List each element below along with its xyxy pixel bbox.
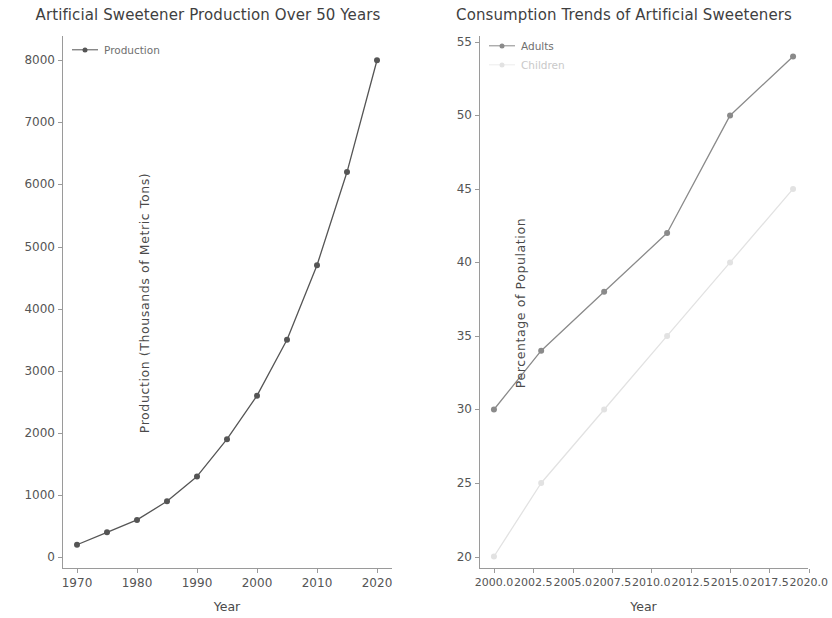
- data-point-marker: [601, 406, 607, 412]
- x-tick-label: 2015.0: [711, 576, 750, 589]
- x-tick-mark: [494, 569, 495, 573]
- data-point-marker: [491, 406, 497, 412]
- data-point-marker: [374, 57, 380, 63]
- x-tick-label: 1980: [122, 576, 153, 590]
- legend-item-label: Children: [521, 59, 565, 71]
- data-point-marker: [790, 54, 796, 60]
- plot-area-consumption: 2025303540455055 2000.02002.52005.02007.…: [479, 36, 808, 569]
- x-tick-label: 2010: [302, 576, 333, 590]
- legend-item-label: Production: [104, 44, 160, 56]
- y-tick-label: 8000: [24, 53, 55, 67]
- y-tick-label: 2000: [24, 426, 55, 440]
- x-axis-title: Year: [630, 599, 656, 614]
- x-tick-label: 1990: [182, 576, 213, 590]
- x-tick-mark: [137, 569, 138, 573]
- x-tick-label: 2010.0: [632, 576, 671, 589]
- x-tick-label: 2007.5: [593, 576, 632, 589]
- legend-item-label: Adults: [521, 40, 554, 52]
- x-tick-mark: [533, 569, 534, 573]
- data-point-marker: [104, 529, 110, 535]
- x-tick-mark: [730, 569, 731, 573]
- data-point-marker: [601, 289, 607, 295]
- data-point-marker: [727, 259, 733, 265]
- x-tick-label: 2020: [362, 576, 393, 590]
- x-tick-mark: [612, 569, 613, 573]
- y-tick-label: 25: [457, 476, 472, 490]
- x-tick-mark: [257, 569, 258, 573]
- y-tick-label: 55: [457, 35, 472, 49]
- series-line: [77, 60, 377, 545]
- plot-area-production: 010002000300040005000600070008000 197019…: [62, 36, 392, 569]
- legend-marker-icon: [489, 41, 515, 51]
- y-tick-label: 40: [457, 255, 472, 269]
- x-tick-mark: [691, 569, 692, 573]
- data-point-marker: [284, 337, 290, 343]
- legend-production: Production: [72, 44, 160, 56]
- x-tick-mark: [769, 569, 770, 573]
- data-point-marker: [194, 473, 200, 479]
- y-tick-label: 0: [47, 550, 55, 564]
- legend-marker-icon: [489, 60, 515, 70]
- x-tick-label: 2017.5: [750, 576, 789, 589]
- legend-item[interactable]: Production: [72, 44, 160, 56]
- y-tick-label: 7000: [24, 115, 55, 129]
- x-tick-mark: [77, 569, 78, 573]
- series-layer-consumption: [479, 36, 808, 569]
- x-tick-mark: [809, 569, 810, 573]
- y-tick-label: 6000: [24, 177, 55, 191]
- y-tick-label: 35: [457, 329, 472, 343]
- x-tick-mark: [573, 569, 574, 573]
- page-title: Artificial Sweetener Production Over 50 …: [0, 6, 416, 24]
- legend-item[interactable]: Adults: [489, 40, 565, 52]
- figure-canvas: Artificial Sweetener Production Over 50 …: [0, 0, 832, 618]
- x-axis-title: Year: [214, 599, 240, 614]
- data-point-marker: [134, 517, 140, 523]
- data-point-marker: [344, 169, 350, 175]
- data-point-marker: [314, 262, 320, 268]
- data-point-marker: [538, 348, 544, 354]
- y-axis-title: Percentage of Population: [513, 217, 528, 387]
- x-tick-label: 2020.0: [790, 576, 829, 589]
- legend-marker-icon: [72, 45, 98, 55]
- x-tick-mark: [651, 569, 652, 573]
- series-layer-production: [62, 36, 392, 569]
- series-line: [494, 189, 793, 557]
- data-point-marker: [664, 230, 670, 236]
- x-tick-label: 2005.0: [553, 576, 592, 589]
- x-tick-mark: [377, 569, 378, 573]
- x-tick-label: 2002.5: [514, 576, 553, 589]
- y-tick-label: 45: [457, 182, 472, 196]
- data-point-marker: [790, 186, 796, 192]
- data-point-marker: [491, 554, 497, 560]
- panel-consumption: Consumption Trends of Artificial Sweeten…: [416, 0, 832, 618]
- x-tick-label: 2012.5: [671, 576, 710, 589]
- x-tick-label: 2000.0: [475, 576, 514, 589]
- data-point-marker: [538, 480, 544, 486]
- data-point-marker: [254, 393, 260, 399]
- y-tick-label: 50: [457, 108, 472, 122]
- panel-production: Artificial Sweetener Production Over 50 …: [0, 0, 416, 618]
- y-tick-label: 3000: [24, 364, 55, 378]
- y-tick-label: 5000: [24, 240, 55, 254]
- x-tick-mark: [197, 569, 198, 573]
- data-point-marker: [224, 436, 230, 442]
- data-point-marker: [664, 333, 670, 339]
- y-axis-title: Production (Thousands of Metric Tons): [137, 172, 152, 433]
- y-tick-label: 1000: [24, 488, 55, 502]
- y-tick-label: 4000: [24, 302, 55, 316]
- page-title: Consumption Trends of Artificial Sweeten…: [416, 6, 832, 24]
- x-tick-label: 2000: [242, 576, 273, 590]
- data-point-marker: [74, 542, 80, 548]
- legend-item[interactable]: Children: [489, 59, 565, 71]
- series-line: [494, 57, 793, 410]
- y-tick-label: 30: [457, 402, 472, 416]
- data-point-marker: [727, 112, 733, 118]
- x-tick-mark: [317, 569, 318, 573]
- x-tick-label: 1970: [62, 576, 93, 590]
- data-point-marker: [164, 498, 170, 504]
- legend-consumption: Adults Children: [489, 40, 565, 71]
- y-tick-label: 20: [457, 550, 472, 564]
